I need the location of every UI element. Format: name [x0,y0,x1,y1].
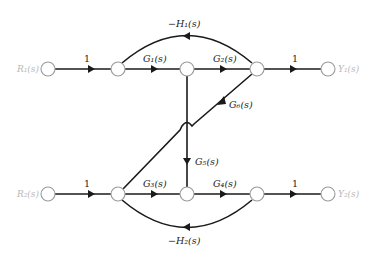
label-h1: −H₁(s) [168,18,201,29]
arrow-right-icon [88,190,95,198]
arrow-left-icon [183,223,190,231]
arrow-right-icon [220,190,227,198]
branch-h2 [122,200,252,228]
node-n5 [180,187,194,201]
arrow-right-icon [151,190,158,198]
label-r1: R₁(s) [16,64,40,74]
label-r2: R₂(s) [16,189,40,199]
node-n3 [250,62,264,76]
signal-flow-graph: R₁(s) R₂(s) Y₁(s) Y₂(s) 1 G₁(s) G₂(s) 1 … [0,0,377,253]
arrow-right-icon [88,65,95,73]
label-g1: G₁(s) [143,53,167,64]
node-r1 [41,62,55,76]
node-n6 [250,187,264,201]
arrow-right-icon [151,65,158,73]
arrow-right-icon [290,190,297,198]
label-out1: 1 [292,53,298,64]
arrow-right-icon [220,65,227,73]
label-g2: G₂(s) [213,53,237,64]
label-g3: G₃(s) [143,178,167,189]
label-y1: Y₁(s) [338,64,360,74]
node-n1 [111,62,125,76]
node-n4 [111,187,125,201]
node-r2 [41,187,55,201]
label-g5: G₅(s) [195,156,219,167]
arrow-left-icon [183,32,190,40]
label-g4: G₄(s) [213,178,237,189]
node-n2 [180,62,194,76]
node-y1 [321,62,335,76]
arrow-down-icon [183,158,191,165]
label-in1: 1 [84,53,90,64]
label-h2: −H₂(s) [168,235,201,246]
node-y2 [321,187,335,201]
label-y2: Y₂(s) [338,189,360,199]
label-out2: 1 [292,178,298,189]
label-in2: 1 [84,178,90,189]
label-g6: G₆(s) [229,99,253,110]
arrow-right-icon [290,65,297,73]
